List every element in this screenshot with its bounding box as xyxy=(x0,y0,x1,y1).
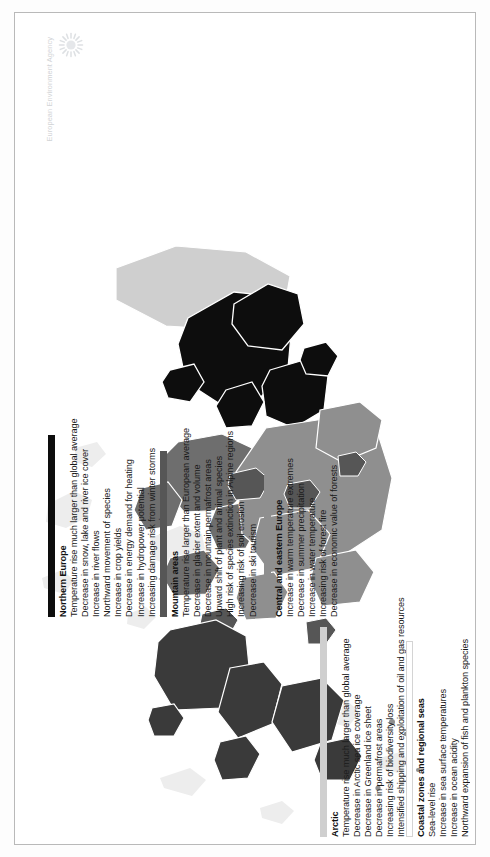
list-item: Temperature rise larger than European av… xyxy=(181,451,192,617)
legend-block-coastal-zones: Coastal zones and regional seas Sea-leve… xyxy=(406,641,470,837)
legend-items: Sea-level rise Increase in sea surface t… xyxy=(427,641,470,837)
legend-block-central-eastern-europe: Central and eastern Europe Increase in w… xyxy=(264,475,340,617)
legend-block-arctic: Arctic Temperature rise much larger than… xyxy=(320,627,408,837)
legend-items: Temperature rise larger than European av… xyxy=(181,451,259,617)
legend-items: Temperature rise much larger than global… xyxy=(341,627,408,837)
list-item: Increasing risk of soil erosion xyxy=(236,451,247,617)
swatch-central-eastern-europe xyxy=(264,475,271,617)
legend-title: Central and eastern Europe xyxy=(274,475,285,617)
list-item: Temperature rise much larger than global… xyxy=(69,435,80,617)
list-item: Decrease in energy demand for heating xyxy=(124,435,135,617)
list-item: Decrease in economic value of forests xyxy=(329,475,340,617)
sun-starburst-icon xyxy=(58,32,88,58)
legend-title: Northern Europe xyxy=(58,435,69,617)
list-item: Increase in warm temperature extremes xyxy=(285,475,296,617)
list-item: Increase in hydropower potential xyxy=(136,435,147,617)
list-item: Increasing risk of biodiversity loss xyxy=(385,627,396,837)
legend-layer: Northern Europe Temperature rise much la… xyxy=(20,18,470,839)
swatch-northern-europe xyxy=(48,435,55,617)
list-item: Increase in sea surface temperatures xyxy=(438,641,449,837)
legend-items: Temperature rise much larger than global… xyxy=(69,435,169,617)
list-item: Temperature rise much larger than global… xyxy=(341,627,352,837)
legend-title: Arctic xyxy=(330,627,341,837)
legend-block-mountain-areas: Mountain areas Temperature rise larger t… xyxy=(160,451,259,617)
list-item: Decrease in mountain permafrost areas xyxy=(203,451,214,617)
list-item: Decrease in ski tourism xyxy=(248,451,259,617)
list-item: Decrease in snow, lake and river ice cov… xyxy=(80,435,91,617)
swatch-mountain-areas xyxy=(160,451,167,617)
eea-logo-label: European Environment Agency xyxy=(45,37,54,142)
list-item: Increase in ocean acidity xyxy=(449,641,460,837)
list-item: Decrease in summer precipitation xyxy=(296,475,307,617)
list-item: Decrease in glacier extent and volume xyxy=(192,451,203,617)
legend-items: Increase in warm temperature extremes De… xyxy=(285,475,340,617)
list-item: Sea-level rise xyxy=(427,641,438,837)
legend-block-northern-europe: Northern Europe Temperature rise much la… xyxy=(48,435,169,617)
map-canvas: Northern Europe Temperature rise much la… xyxy=(20,18,470,839)
list-item: High risk of species extinction in Alpin… xyxy=(225,451,236,617)
legend-title: Mountain areas xyxy=(170,451,181,617)
swatch-coastal-zones xyxy=(406,641,413,837)
figure-page: Northern Europe Temperature rise much la… xyxy=(0,0,490,857)
list-item: Decrease in Arctic sea ice coverage xyxy=(352,627,363,837)
list-item: Increasing risk of forest fire xyxy=(318,475,329,617)
list-item: Increasing damage risk from winter storm… xyxy=(147,435,158,617)
swatch-arctic xyxy=(320,627,327,837)
list-item: Increase in water temperature xyxy=(307,475,318,617)
legend-title: Coastal zones and regional seas xyxy=(416,641,427,837)
list-item: Upward shift of plant and animal species xyxy=(214,451,225,617)
list-item: Increase in river flows xyxy=(91,435,102,617)
list-item: Northward movement of species xyxy=(102,435,113,617)
list-item: Decrease in permafrost areas xyxy=(374,627,385,837)
list-item: Increase in crop yields xyxy=(113,435,124,617)
list-item: Northward expansion of fish and plankton… xyxy=(460,641,470,837)
list-item: Decrease in Greenland ice sheet xyxy=(363,627,374,837)
eea-logo: European Environment Agency xyxy=(40,32,88,158)
